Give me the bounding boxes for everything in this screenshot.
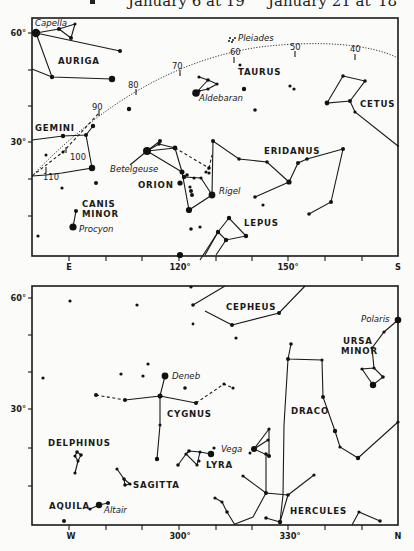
star-dot (36, 234, 39, 237)
star-dot (312, 473, 315, 476)
star-name-label: Pleiades (238, 33, 274, 43)
star-dot (267, 427, 270, 430)
star-dot (155, 457, 159, 461)
star-name-label: Polaris (361, 314, 390, 324)
ecliptic-longitude-label: 50 (290, 42, 301, 52)
star-dot (348, 99, 352, 103)
pleiades-cluster-icon (229, 37, 231, 39)
star-dot (396, 420, 399, 423)
constellation-line (205, 311, 232, 325)
constellation-line (288, 475, 314, 495)
star-dot (329, 200, 333, 204)
star-dot (357, 510, 360, 513)
star-dot (261, 203, 264, 206)
star-dot (209, 192, 216, 199)
star-dot (183, 386, 187, 390)
star-dot (325, 101, 330, 106)
star-dot (305, 157, 309, 161)
star-dot (192, 176, 195, 179)
star-dot (162, 373, 169, 380)
star-dot (251, 446, 257, 452)
constellation-label: SAGITTA (133, 480, 180, 490)
star-dot (119, 372, 122, 375)
constellation-label: GEMINI (35, 123, 75, 133)
star-name-label: Rigel (219, 186, 241, 196)
star-dot (370, 382, 376, 388)
constellation-line (254, 429, 269, 456)
star-dot (76, 459, 79, 462)
star-dot (292, 87, 295, 90)
star-dot (41, 376, 44, 379)
star-dot (159, 424, 162, 427)
star-dot (341, 147, 345, 151)
star-dot (204, 170, 207, 173)
star-dot (266, 438, 269, 441)
star-dot (45, 154, 48, 157)
constellation-label: LYRA (206, 460, 233, 470)
star-dot (189, 189, 193, 193)
star-dot (188, 185, 191, 188)
star-dot (321, 395, 325, 399)
star-name-label: Vega (221, 444, 242, 454)
constellation-label: DRACO (291, 406, 329, 416)
star-name-label: Altair (103, 505, 127, 515)
constellation-label: CETUS (360, 99, 395, 109)
star-dot (356, 456, 360, 460)
constellation-label: CEPHEUS (226, 302, 276, 312)
constellation-line (75, 461, 78, 473)
constellation-line (254, 429, 269, 449)
x-axis-label: W (66, 531, 75, 541)
ecliptic-longitude-label: 40 (350, 44, 361, 54)
star-dot (206, 87, 209, 90)
star-dot (189, 227, 193, 231)
star-dot (194, 401, 198, 405)
star-dot (278, 520, 282, 524)
star-dot (127, 107, 131, 111)
star-dot (109, 76, 115, 82)
star-dot (69, 36, 73, 40)
ecliptic-longitude-label: 60 (230, 47, 241, 57)
star-dot (253, 108, 257, 112)
ecliptic-longitude-label: 90 (92, 102, 103, 112)
star-dot (146, 362, 149, 365)
star-dot (123, 398, 127, 402)
star-name-label: Aldebaran (198, 93, 243, 103)
star-dot (198, 450, 201, 453)
star-dot (128, 482, 131, 485)
x-axis-label: S (395, 262, 401, 272)
star-dot (296, 161, 300, 165)
star-dot (338, 445, 341, 448)
star-dot (215, 82, 218, 85)
star-dot (158, 139, 162, 143)
star-dot (176, 463, 180, 467)
star-dot (187, 449, 191, 453)
star-dot (190, 193, 194, 197)
constellation-line (36, 33, 120, 51)
star-dot (241, 474, 244, 477)
star-dot (73, 471, 76, 474)
star-dot (227, 216, 231, 220)
star-dot (89, 165, 95, 171)
star-dot (264, 516, 268, 520)
star-dot (360, 367, 363, 370)
star-dot (234, 336, 237, 339)
star-name-label: Deneb (172, 371, 201, 381)
star-dot (123, 483, 127, 487)
star-dot (96, 502, 102, 508)
star-dot (211, 139, 215, 143)
star-dot (69, 223, 76, 230)
star-dot (244, 234, 248, 238)
constellation-label: CYGNUS (167, 409, 212, 419)
star-dot (173, 146, 178, 151)
constellation-label: TAURUS (238, 67, 281, 77)
star-dot (320, 358, 323, 361)
star-dot (381, 375, 385, 379)
constellation-line (243, 476, 266, 493)
star-dot (382, 330, 385, 333)
x-axis-label: N (395, 531, 402, 541)
star-dot (195, 463, 198, 466)
constellation-label: ORION (138, 180, 174, 190)
star-dot (68, 299, 71, 302)
star-dot (378, 519, 382, 523)
constellation-label: AQUILA (49, 501, 90, 511)
